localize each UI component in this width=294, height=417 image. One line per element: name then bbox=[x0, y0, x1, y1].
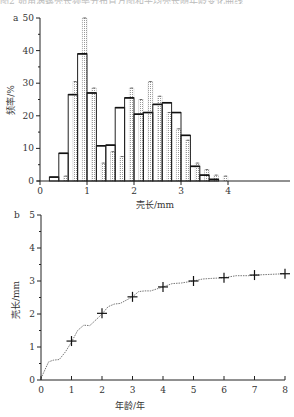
chart-b-x-axis-label: 年龄/年 bbox=[115, 400, 145, 411]
y-tick-label: 0 bbox=[28, 176, 34, 186]
chart-a-shell-length-histogram: 0102030405001234 a 壳长/mm 频率/% bbox=[0, 0, 294, 210]
mean-length-markers bbox=[67, 269, 291, 346]
x-tick-label: 4 bbox=[160, 385, 166, 395]
dotted-bar bbox=[129, 88, 134, 181]
x-tick-label: 1 bbox=[69, 385, 75, 395]
chart-a-y-axis-label: 频率/% bbox=[5, 85, 16, 115]
y-tick-label: 20 bbox=[23, 111, 35, 121]
x-tick-label: 7 bbox=[252, 385, 258, 395]
dotted-bar bbox=[176, 129, 181, 181]
y-tick-label: 5 bbox=[29, 210, 35, 220]
growth-curve bbox=[41, 274, 285, 379]
dotted-bar bbox=[111, 152, 116, 181]
x-tick-label: 3 bbox=[130, 385, 136, 395]
dotted-bar bbox=[158, 96, 163, 181]
dotted-series-bars bbox=[64, 18, 229, 181]
dotted-bar bbox=[64, 176, 69, 181]
x-tick-label: 3 bbox=[178, 186, 184, 196]
x-tick-label: 6 bbox=[221, 385, 227, 395]
x-tick-label: 4 bbox=[225, 186, 231, 196]
y-tick-label: 50 bbox=[23, 13, 35, 23]
chart-b-y-axis-label: 壳长/mm bbox=[10, 280, 21, 319]
dotted-bar bbox=[139, 100, 144, 182]
panel-label-b: b bbox=[14, 210, 20, 220]
dotted-bar bbox=[167, 113, 172, 181]
x-tick-label: 0 bbox=[38, 385, 44, 395]
dotted-bar bbox=[82, 18, 87, 181]
x-tick-label: 8 bbox=[282, 385, 288, 395]
x-tick-label: 1 bbox=[84, 186, 90, 196]
dotted-bar bbox=[92, 88, 97, 181]
dotted-bar bbox=[148, 82, 153, 181]
y-tick-label: 3 bbox=[29, 276, 35, 286]
y-tick-label: 30 bbox=[23, 78, 35, 88]
chart-b-axes: 012345012345678 bbox=[29, 210, 288, 395]
panel-label-a: a bbox=[13, 13, 19, 23]
dotted-bar bbox=[223, 176, 228, 181]
dotted-bar bbox=[120, 157, 125, 181]
y-tick-label: 40 bbox=[23, 46, 35, 56]
x-tick-label: 2 bbox=[131, 186, 137, 196]
dotted-bar bbox=[186, 140, 191, 181]
dotted-bar bbox=[101, 163, 106, 181]
y-tick-label: 1 bbox=[29, 342, 35, 352]
x-tick-label: 5 bbox=[191, 385, 197, 395]
chart-a-x-axis-label: 壳长/mm bbox=[136, 199, 175, 210]
x-tick-label: 2 bbox=[99, 385, 105, 395]
growth-curve-line bbox=[41, 274, 285, 379]
y-tick-label: 10 bbox=[23, 143, 35, 153]
dotted-bar bbox=[73, 82, 78, 181]
x-tick-label: 0 bbox=[37, 186, 43, 196]
y-tick-label: 2 bbox=[29, 309, 35, 319]
y-tick-label: 0 bbox=[29, 375, 35, 385]
y-tick-label: 4 bbox=[29, 243, 35, 253]
